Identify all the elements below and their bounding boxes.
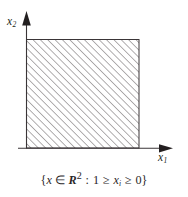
- caption-index: i: [119, 179, 121, 188]
- region-hatch-fill: [27, 40, 140, 149]
- y-axis-label: x2: [7, 16, 16, 28]
- caption-set-name: R: [68, 173, 77, 187]
- shaded-region: [27, 40, 140, 149]
- caption-colon: :: [85, 173, 89, 187]
- caption-ge-right: ≥: [124, 173, 132, 187]
- caption-close-brace: }: [142, 173, 148, 187]
- caption-variable: x: [46, 173, 51, 187]
- figure-caption: {x∈R2:1≥xi≥0}: [0, 170, 188, 187]
- x-axis-label: x1: [158, 152, 167, 164]
- caption-upper-bound: 1: [93, 173, 99, 187]
- y-axis-label-subscript: 2: [12, 20, 16, 29]
- caption-set-exponent: 2: [77, 170, 82, 181]
- caption-member-operator: ∈: [54, 173, 65, 187]
- region-plot-figure: x2 x1 {x∈R2:1≥xi≥0}: [0, 0, 188, 197]
- caption-ge-left: ≥: [102, 173, 110, 187]
- x-axis-label-subscript: 1: [163, 156, 167, 165]
- plot-canvas: [0, 0, 188, 197]
